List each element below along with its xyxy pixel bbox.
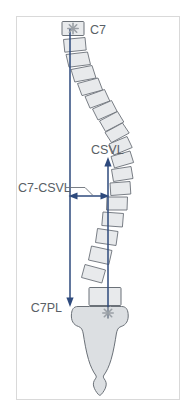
c7-asterisk-marker: [68, 23, 78, 33]
spine-diagram: C7 CSVL C7-CSVL C7PL: [0, 0, 196, 416]
sacrum-asterisk-marker: [103, 308, 113, 318]
c7-csvl-offset-arrow: [69, 192, 110, 199]
label-csvl: CSVL: [91, 143, 124, 157]
vertebra-l5: [89, 288, 121, 306]
label-c7pl: C7PL: [31, 301, 62, 315]
figure-root: C7 CSVL C7-CSVL C7PL: [0, 0, 196, 416]
label-c7-csvl: C7-CSVL: [18, 181, 71, 195]
vertebral-column: [62, 22, 134, 396]
vertebra-body: [64, 38, 134, 284]
sacrum-pelvis: [71, 307, 128, 396]
label-c7: C7: [90, 23, 106, 37]
